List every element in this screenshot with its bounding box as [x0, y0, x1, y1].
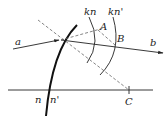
- refraction-diagram: a b A B C kn kn' n n': [0, 0, 168, 121]
- label-C: C: [125, 96, 133, 107]
- refracted-ray: [61, 40, 163, 53]
- label-B: B: [116, 33, 124, 44]
- label-a: a: [15, 36, 21, 47]
- label-A: A: [99, 21, 107, 32]
- label-b: b: [150, 37, 156, 48]
- label-kn-prime: kn': [108, 6, 123, 17]
- construction-line-ab: [98, 30, 115, 45]
- arc-kn: [87, 17, 95, 63]
- label-n-prime: n': [50, 94, 59, 105]
- construction-line-a: [61, 28, 104, 40]
- label-kn: kn: [84, 6, 97, 17]
- label-n: n: [35, 94, 41, 105]
